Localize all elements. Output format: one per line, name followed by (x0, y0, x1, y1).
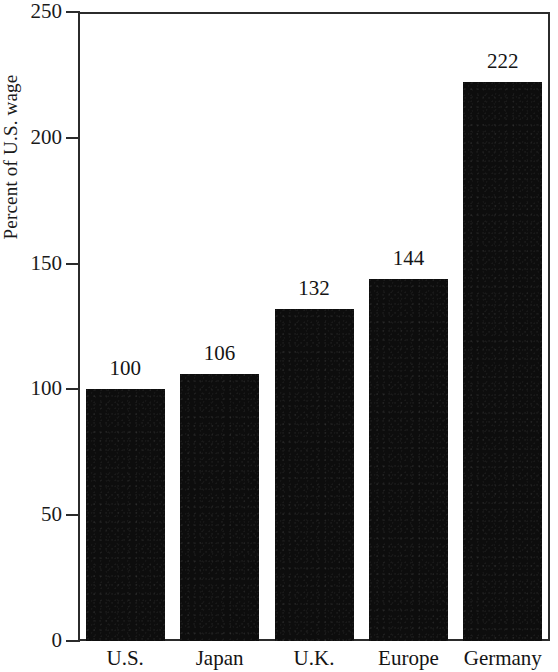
bar-value-label: 144 (363, 248, 453, 269)
bar[interactable] (463, 82, 542, 641)
bar[interactable] (180, 374, 259, 641)
y-axis-tick-label: 50 (2, 504, 62, 525)
y-axis-tick-label: 150 (2, 253, 62, 274)
x-axis-category-label: Germany (448, 648, 558, 669)
bar-value-label: 132 (269, 278, 359, 299)
y-axis-tick (66, 137, 80, 139)
y-axis-tick-label: 0 (2, 630, 62, 651)
y-axis-tick (66, 263, 80, 265)
y-axis-tick (66, 514, 80, 516)
bar[interactable] (275, 309, 354, 641)
bar-value-label: 106 (175, 343, 265, 364)
y-axis-tick-label: 100 (2, 378, 62, 399)
y-axis-tick (66, 11, 80, 13)
y-axis-tick (66, 640, 80, 642)
bar-value-label: 100 (80, 358, 170, 379)
bar[interactable] (369, 279, 448, 641)
bar-value-label: 222 (458, 51, 548, 72)
bar-chart-figure: Percent of U.S. wage 250200150100500 100… (0, 0, 558, 672)
bar[interactable] (86, 389, 165, 641)
y-axis-tick (66, 388, 80, 390)
y-axis-tick-label: 250 (2, 1, 62, 22)
y-axis-tick-label: 200 (2, 127, 62, 148)
y-axis-title: Percent of U.S. wage (0, 52, 22, 262)
